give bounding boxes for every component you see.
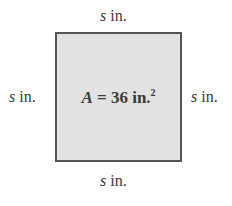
square-shape: A = 36 in.2 (55, 32, 182, 162)
area-exponent: 2 (151, 87, 156, 98)
side-unit: in. (15, 88, 35, 105)
side-label-right: s in. (191, 89, 218, 105)
area-value: = 36 in. (93, 88, 151, 107)
side-unit: in. (106, 172, 126, 189)
side-label-top: s in. (100, 8, 127, 24)
area-label: A = 36 in.2 (57, 87, 180, 108)
area-variable: A (81, 88, 92, 107)
side-label-left: s in. (9, 89, 36, 105)
side-unit: in. (197, 88, 217, 105)
side-unit: in. (106, 7, 126, 24)
side-label-bottom: s in. (100, 173, 127, 189)
